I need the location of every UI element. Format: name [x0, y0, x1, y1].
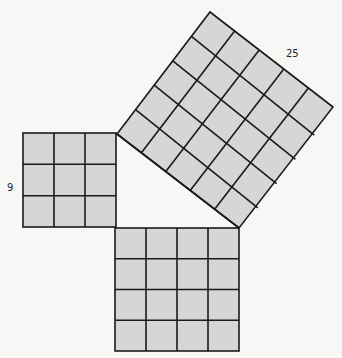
- square-bottom-4x4: [115, 228, 239, 351]
- pythagoras-diagram: 9 25: [0, 0, 342, 358]
- label-hypotenuse-square: 25: [286, 48, 299, 59]
- square-left-3x3: [23, 133, 116, 227]
- label-left-square: 9: [7, 182, 13, 193]
- square-hypotenuse-5x5: [117, 12, 333, 228]
